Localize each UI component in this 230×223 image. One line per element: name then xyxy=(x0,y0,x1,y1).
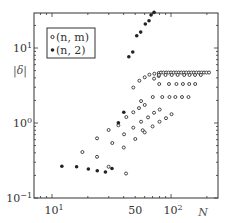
point-nm xyxy=(122,146,125,149)
point-nm xyxy=(111,142,114,145)
point-nm xyxy=(132,86,135,89)
point-nm xyxy=(143,76,146,79)
y-tick-label: 100 xyxy=(13,116,32,130)
point-n2 xyxy=(144,22,148,26)
point-nm xyxy=(164,117,167,120)
point-nm xyxy=(183,73,186,76)
x-tick-label: 101 xyxy=(44,203,63,217)
point-nm xyxy=(208,71,211,74)
y-tick-label: 101 xyxy=(13,41,32,55)
point-nm xyxy=(188,83,191,86)
point-n2 xyxy=(135,34,139,38)
point-nm xyxy=(81,151,84,154)
point-nm xyxy=(194,83,197,86)
point-nm xyxy=(125,116,128,119)
point-nm xyxy=(176,73,179,76)
point-nm xyxy=(188,73,191,76)
point-nm xyxy=(132,111,135,114)
point-nm xyxy=(194,73,197,76)
point-nm xyxy=(96,137,99,140)
point-nm xyxy=(175,83,178,86)
point-nm xyxy=(157,73,160,76)
point-n2 xyxy=(127,55,131,59)
point-nm xyxy=(199,73,202,76)
point-nm xyxy=(158,83,161,86)
point-nm xyxy=(167,83,170,86)
point-n2 xyxy=(75,165,79,169)
point-n2 xyxy=(149,13,153,17)
y-axis-label: |δ| xyxy=(13,64,27,78)
x-tick-label: 50 xyxy=(128,204,142,217)
point-nm xyxy=(134,137,137,140)
point-nm xyxy=(147,116,150,119)
point-nm xyxy=(96,155,99,158)
legend-label-nm: (n, m) xyxy=(56,31,89,44)
point-nm xyxy=(148,73,151,76)
point-n2 xyxy=(139,30,143,34)
legend: (n, m) (n, 2) xyxy=(47,28,95,58)
x-tick-label: 102 xyxy=(163,203,182,217)
legend-label-n2: (n, 2) xyxy=(56,44,86,57)
point-nm xyxy=(125,172,128,175)
point-nm xyxy=(158,108,161,111)
tick-labels: 1015010210−1100101 xyxy=(6,41,182,217)
point-nm xyxy=(170,73,173,76)
point-n2 xyxy=(87,167,91,171)
point-nm xyxy=(174,96,177,99)
point-nm xyxy=(158,120,161,123)
point-nm xyxy=(181,83,184,86)
point-nm xyxy=(153,77,156,80)
point-nm xyxy=(143,131,146,134)
point-nm xyxy=(132,126,135,129)
point-n2 xyxy=(147,19,151,23)
point-n2 xyxy=(152,11,156,15)
point-nm xyxy=(151,96,154,99)
point-nm xyxy=(140,100,143,103)
legend-marker-filled xyxy=(51,48,55,52)
point-n2 xyxy=(110,167,114,171)
point-n2 xyxy=(95,169,99,173)
legend-marker-open xyxy=(51,35,54,38)
point-nm xyxy=(151,125,154,128)
point-nm xyxy=(170,113,173,116)
point-nm xyxy=(153,111,156,114)
scatter-chart: 1015010210−1100101 |δ| N (n, m) (n, 2) xyxy=(0,0,230,223)
point-n2 xyxy=(117,121,121,125)
point-n2 xyxy=(104,170,108,174)
point-nm xyxy=(140,120,143,123)
point-nm xyxy=(161,96,164,99)
point-nm xyxy=(138,79,141,82)
point-nm xyxy=(143,103,146,106)
point-nm xyxy=(168,96,171,99)
y-tick-label: 10−1 xyxy=(6,191,32,205)
point-nm xyxy=(164,73,167,76)
point-n2 xyxy=(122,110,126,114)
point-n2 xyxy=(131,50,135,54)
point-nm xyxy=(107,165,110,168)
point-nm xyxy=(180,96,183,99)
point-nm xyxy=(123,133,126,136)
point-nm xyxy=(107,128,110,131)
point-nm xyxy=(137,107,140,110)
point-nm xyxy=(153,72,156,75)
point-n2 xyxy=(60,164,64,168)
x-axis-label: N xyxy=(197,206,208,219)
point-nm xyxy=(187,96,190,99)
